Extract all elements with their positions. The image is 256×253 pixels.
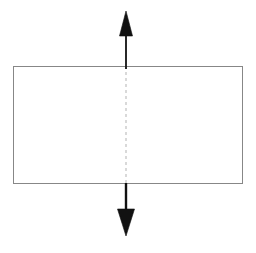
diagram-svg — [0, 0, 256, 253]
figure-canvas — [0, 0, 256, 253]
